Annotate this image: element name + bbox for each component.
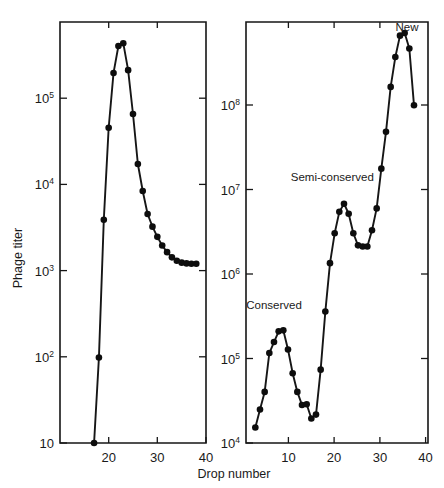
data-point: [392, 54, 399, 61]
data-point: [105, 124, 112, 131]
data-point: [149, 223, 156, 230]
left-ytick-label-5: 105: [35, 90, 54, 106]
left-panel-points: [91, 40, 200, 446]
data-point: [266, 350, 273, 357]
data-point: [91, 440, 98, 447]
data-point: [341, 200, 348, 207]
left-ytick-label-4: 104: [35, 176, 54, 192]
data-point: [261, 389, 268, 396]
data-point: [331, 230, 338, 237]
left-xtick-label-30: 30: [150, 450, 164, 465]
data-point: [289, 370, 296, 377]
data-point: [193, 261, 200, 268]
right-panel: 104 105 106 107 108 10 20 30 40 Conserve…: [221, 21, 433, 466]
data-point: [257, 406, 264, 413]
left-panel: 10 102 103 104 105 20 30 40: [35, 22, 213, 465]
left-panel-curve: [94, 43, 196, 443]
data-point: [139, 188, 146, 195]
data-point: [406, 45, 413, 52]
right-xtick-label-40: 40: [418, 450, 432, 465]
data-point: [101, 216, 108, 223]
data-point: [317, 366, 324, 373]
data-point: [159, 242, 166, 249]
right-ytick-label-2: 105: [221, 351, 240, 367]
data-point: [336, 209, 343, 216]
data-point: [135, 161, 142, 168]
right-ytick-label-1: 104: [221, 435, 240, 451]
data-point: [164, 249, 171, 256]
right-panel-x-ticks: [288, 22, 425, 443]
data-point: [411, 102, 418, 109]
data-point: [373, 205, 380, 212]
data-point: [110, 70, 117, 77]
data-point: [271, 339, 278, 346]
data-point: [294, 389, 301, 396]
right-xtick-label-20: 20: [327, 450, 341, 465]
data-point: [280, 327, 287, 334]
right-panel-points: [252, 30, 417, 431]
data-point: [285, 346, 292, 353]
data-point: [144, 211, 151, 218]
right-xtick-label-10: 10: [281, 450, 295, 465]
annotation-semi-conserved: Semi-conserved: [291, 171, 374, 183]
y-axis-title: Phage titer: [11, 228, 25, 288]
right-ytick-label-4: 107: [221, 182, 240, 198]
data-point: [322, 308, 329, 315]
data-point: [313, 411, 320, 418]
data-point: [154, 234, 161, 241]
data-point: [303, 401, 310, 408]
annotation-new: New: [395, 21, 419, 33]
data-point: [327, 260, 334, 267]
annotation-conserved: Conserved: [246, 299, 302, 311]
data-point: [350, 230, 357, 237]
left-panel-x-ticks: [109, 22, 206, 443]
figure-svg: 10 102 103 104 105 20 30 40: [0, 0, 444, 488]
data-point: [378, 165, 385, 172]
left-ytick-label-1: 10: [40, 436, 54, 451]
right-panel-y-ticks: [246, 105, 428, 443]
data-point: [96, 354, 103, 361]
right-xtick-label-30: 30: [373, 450, 387, 465]
data-point: [252, 424, 259, 431]
left-xtick-label-40: 40: [199, 450, 213, 465]
left-ytick-label-3: 103: [35, 263, 54, 279]
data-point: [387, 84, 394, 91]
left-ytick-label-2: 102: [35, 349, 54, 365]
data-point: [125, 67, 132, 74]
right-ytick-label-3: 106: [221, 266, 240, 282]
data-point: [120, 40, 127, 47]
data-point: [369, 227, 376, 234]
data-point: [345, 210, 352, 217]
data-point: [130, 111, 137, 118]
left-xtick-label-20: 20: [101, 450, 115, 465]
left-panel-y-ticks: [60, 98, 206, 443]
data-point: [364, 243, 371, 250]
x-axis-title: Drop number: [198, 467, 271, 481]
left-panel-frame: [60, 22, 206, 443]
phage-titer-figure: 10 102 103 104 105 20 30 40: [0, 0, 444, 488]
data-point: [383, 129, 390, 136]
right-ytick-label-5: 108: [221, 97, 240, 113]
